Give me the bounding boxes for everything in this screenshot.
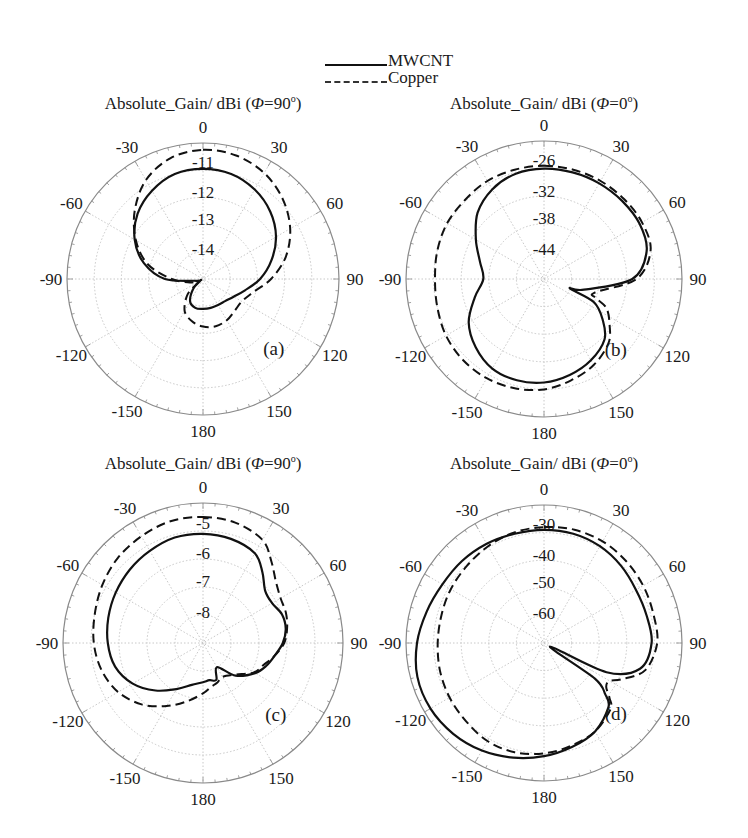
legend: MWCNT Copper [325,52,453,86]
tick [96,731,98,733]
tick [647,190,649,192]
tick [76,584,79,585]
tick [113,536,115,538]
radial-label: -50 [533,573,556,592]
tick [268,392,271,397]
angle-label: -90 [36,634,59,653]
tick [125,388,127,390]
tick [65,619,68,620]
tick [179,505,180,508]
tick [270,759,273,764]
tick [610,159,613,164]
plot-title-d: Absolute_Gain/ dBi (Φ=0o) [450,453,638,474]
tick [601,765,602,768]
tick [144,516,145,519]
tick [259,156,260,159]
tick [671,325,674,326]
tick [319,710,324,713]
tick [455,382,457,384]
polar-plot-d: 0306090120150180-150-120-90-60-30-30-40-… [379,480,707,807]
tick [227,505,228,508]
radial-label: -13 [192,210,215,229]
tick [107,183,109,185]
tick [297,373,299,375]
tick [338,667,341,668]
tick [610,393,613,398]
tick [419,221,422,222]
tick [270,522,273,527]
tick [300,544,302,546]
tick [279,168,281,170]
tick [261,767,262,770]
tick [475,757,478,762]
tick [658,709,663,712]
tick [465,754,467,756]
tick [419,585,422,586]
tick [146,156,147,159]
tick [431,720,433,722]
tick [486,765,487,768]
tick [408,255,411,256]
angle-label: 60 [669,557,686,576]
tick [316,344,321,347]
angle-label: 120 [325,712,351,731]
tick [75,324,78,325]
tick [601,518,602,521]
angle-label: 0 [199,478,208,497]
angle-label: 150 [268,769,294,788]
panel-label: (c) [265,704,286,726]
tick [324,335,327,336]
panel-label: (a) [263,338,284,360]
tick [631,382,633,384]
tick [658,574,663,577]
tick [250,772,251,775]
tick [677,619,680,620]
radial-label: -40 [533,546,556,565]
tick [107,373,109,375]
tick [146,400,147,403]
angle-label: 30 [271,138,288,157]
radial-label: -38 [533,209,556,228]
tick [408,619,411,620]
polar-plot-a: 0306090120150180-150-120-90-60-30-11-12-… [40,118,364,441]
tick [328,324,331,325]
tick [567,143,568,146]
angle-label: 90 [690,634,707,653]
tick [655,200,657,202]
tick [248,151,249,154]
tick [424,574,429,577]
tick [465,390,467,392]
tick [590,406,591,409]
angle-label: 120 [665,347,691,366]
legend-item-mwcnt: MWCNT [325,52,453,69]
angle-label: -150 [109,769,140,788]
tick [85,211,90,214]
angle-label: -150 [111,402,142,421]
angle-label: 30 [273,499,290,518]
tick [308,553,310,555]
tick [424,210,429,213]
angle-label: -120 [395,347,426,366]
tick [297,183,299,185]
tick [455,746,457,748]
tick [315,722,317,724]
tick [475,159,478,164]
angle-label: 150 [608,403,634,422]
plot-title-c: Absolute_Gain/ dBi (Φ=90o) [105,453,302,474]
tick [334,255,337,256]
radial-label: -7 [196,572,211,591]
tick [135,161,138,166]
angle-label: 180 [190,422,216,441]
tick [104,740,106,742]
tick [123,755,125,757]
tick [666,700,669,701]
tick [446,545,448,547]
tick [520,776,521,779]
panel-label: (b) [605,339,627,361]
tick [639,545,641,547]
angle-label: -120 [52,712,83,731]
tick [658,210,663,213]
tick [431,356,433,358]
tick [312,355,314,357]
tick [520,507,521,510]
